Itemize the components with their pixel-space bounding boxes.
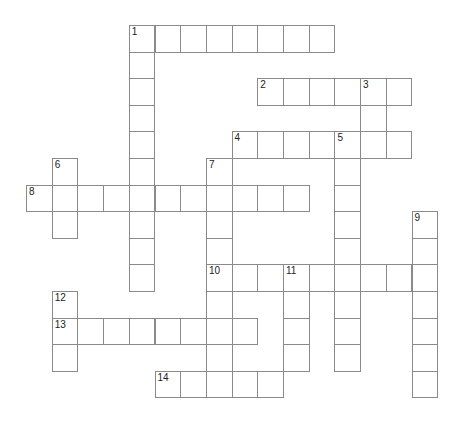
crossword-cell[interactable]: 10 <box>206 264 233 292</box>
crossword-cell[interactable]: 13 <box>52 318 79 346</box>
crossword-cell[interactable] <box>309 264 336 292</box>
crossword-cell[interactable] <box>77 185 104 213</box>
crossword-cell[interactable] <box>412 344 439 372</box>
crossword-cell[interactable] <box>283 131 310 159</box>
crossword-cell[interactable]: 12 <box>52 291 79 319</box>
crossword-cell[interactable] <box>232 25 259 53</box>
crossword-cell[interactable]: 5 <box>334 131 361 159</box>
crossword-cell[interactable] <box>257 371 284 399</box>
clue-number: 7 <box>209 160 215 170</box>
crossword-cell[interactable]: 2 <box>257 78 284 106</box>
crossword-cell[interactable] <box>334 344 361 372</box>
crossword-cell[interactable] <box>283 344 310 372</box>
crossword-cell[interactable] <box>257 25 284 53</box>
crossword-cell[interactable]: 14 <box>155 371 182 399</box>
clue-number: 8 <box>29 187 35 197</box>
clue-number: 6 <box>55 160 61 170</box>
crossword-cell[interactable] <box>206 344 233 372</box>
crossword-cell[interactable] <box>232 318 259 346</box>
crossword-cell[interactable] <box>129 211 156 239</box>
crossword-cell[interactable] <box>206 25 233 53</box>
crossword-cell[interactable] <box>129 78 156 106</box>
clue-number: 14 <box>158 373 169 383</box>
crossword-cell[interactable]: 11 <box>283 264 310 292</box>
crossword-cell[interactable] <box>283 318 310 346</box>
crossword-cell[interactable] <box>232 185 259 213</box>
crossword-cell[interactable]: 4 <box>232 131 259 159</box>
crossword-cell[interactable] <box>386 131 413 159</box>
crossword-cell[interactable]: 7 <box>206 158 233 186</box>
crossword-cell[interactable] <box>206 185 233 213</box>
clue-number: 10 <box>209 266 220 276</box>
crossword-cell[interactable] <box>232 371 259 399</box>
crossword-cell[interactable] <box>283 25 310 53</box>
clue-number: 13 <box>55 320 66 330</box>
crossword-cell[interactable] <box>360 105 387 133</box>
clue-number: 3 <box>363 80 369 90</box>
crossword-cell[interactable] <box>206 291 233 319</box>
crossword-cell[interactable] <box>309 131 336 159</box>
clue-number: 4 <box>235 133 241 143</box>
crossword-grid: 1234567108911121314 <box>0 0 461 421</box>
clue-number: 9 <box>415 213 421 223</box>
crossword-cell[interactable] <box>257 185 284 213</box>
crossword-cell[interactable] <box>334 185 361 213</box>
crossword-cell[interactable] <box>334 238 361 266</box>
crossword-cell[interactable] <box>129 318 156 346</box>
crossword-cell[interactable] <box>103 318 130 346</box>
crossword-cell[interactable] <box>334 78 361 106</box>
crossword-cell[interactable] <box>334 291 361 319</box>
crossword-cell[interactable]: 3 <box>360 78 387 106</box>
crossword-cell[interactable] <box>52 211 79 239</box>
crossword-cell[interactable] <box>386 264 413 292</box>
crossword-cell[interactable] <box>334 158 361 186</box>
crossword-cell[interactable] <box>412 238 439 266</box>
crossword-cell[interactable] <box>206 318 233 346</box>
clue-number: 1 <box>132 27 138 37</box>
crossword-cell[interactable] <box>206 238 233 266</box>
crossword-cell[interactable] <box>283 291 310 319</box>
crossword-cell[interactable]: 6 <box>52 158 79 186</box>
crossword-cell[interactable] <box>129 131 156 159</box>
crossword-cell[interactable] <box>257 131 284 159</box>
crossword-cell[interactable]: 9 <box>412 211 439 239</box>
crossword-cell[interactable] <box>206 211 233 239</box>
crossword-cell[interactable] <box>334 318 361 346</box>
crossword-cell[interactable] <box>180 318 207 346</box>
crossword-cell[interactable] <box>129 264 156 292</box>
crossword-cell[interactable] <box>283 78 310 106</box>
crossword-cell[interactable] <box>412 291 439 319</box>
crossword-cell[interactable] <box>129 158 156 186</box>
crossword-cell[interactable] <box>386 78 413 106</box>
crossword-cell[interactable] <box>180 25 207 53</box>
crossword-cell[interactable] <box>180 371 207 399</box>
crossword-cell[interactable] <box>77 318 104 346</box>
crossword-cell[interactable]: 8 <box>26 185 53 213</box>
crossword-cell[interactable] <box>206 371 233 399</box>
crossword-cell[interactable]: 1 <box>129 25 156 53</box>
crossword-cell[interactable] <box>103 185 130 213</box>
crossword-cell[interactable] <box>52 344 79 372</box>
crossword-cell[interactable] <box>52 185 79 213</box>
crossword-cell[interactable] <box>309 25 336 53</box>
crossword-cell[interactable] <box>232 264 259 292</box>
crossword-cell[interactable] <box>309 78 336 106</box>
crossword-cell[interactable] <box>155 25 182 53</box>
crossword-cell[interactable] <box>412 264 439 292</box>
crossword-cell[interactable] <box>129 185 156 213</box>
crossword-cell[interactable] <box>180 185 207 213</box>
crossword-cell[interactable] <box>412 318 439 346</box>
crossword-cell[interactable] <box>334 211 361 239</box>
crossword-cell[interactable] <box>412 371 439 399</box>
crossword-cell[interactable] <box>129 52 156 80</box>
crossword-cell[interactable] <box>257 264 284 292</box>
crossword-cell[interactable] <box>129 105 156 133</box>
crossword-cell[interactable] <box>283 185 310 213</box>
crossword-cell[interactable] <box>360 264 387 292</box>
crossword-cell[interactable] <box>155 185 182 213</box>
clue-number: 5 <box>337 133 343 143</box>
crossword-cell[interactable] <box>129 238 156 266</box>
crossword-cell[interactable] <box>155 318 182 346</box>
crossword-cell[interactable] <box>334 264 361 292</box>
crossword-cell[interactable] <box>360 131 387 159</box>
